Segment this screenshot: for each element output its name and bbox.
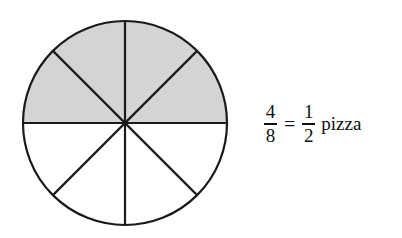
denominator: 2 (304, 126, 314, 146)
denominator: 8 (266, 126, 276, 146)
center-point (123, 121, 127, 125)
fraction-one-half: 1 2 (302, 102, 315, 146)
numerator: 4 (266, 102, 276, 122)
numerator: 1 (304, 102, 314, 122)
fraction-equation: 4 8 = 1 2 pizza (264, 101, 361, 147)
pizza-fraction-circle (0, 0, 250, 238)
unit-label: pizza (321, 113, 361, 135)
fraction-four-eighths: 4 8 (264, 102, 277, 146)
equals-sign: = (284, 113, 295, 136)
